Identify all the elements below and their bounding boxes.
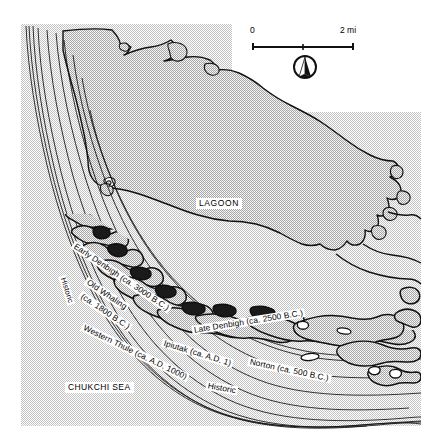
lagoon-label: LAGOON <box>196 198 242 209</box>
scale-bar-left-label: 0 <box>250 25 255 35</box>
scale-bar-right-label: 2 mi <box>340 25 356 35</box>
map-figure: LAGOON CHUKCHI SEA 0 2 mi Historic Early… <box>0 0 442 443</box>
chukchi-sea-label: CHUKCHI SEA <box>65 382 134 393</box>
north-arrow-icon <box>294 56 316 78</box>
map-canvas <box>0 0 442 443</box>
